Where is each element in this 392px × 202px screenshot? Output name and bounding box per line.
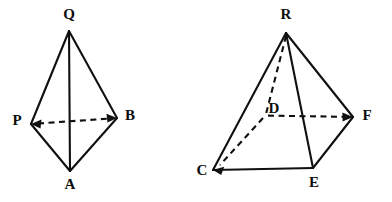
vertex-label-P: P <box>12 112 21 128</box>
vertex-label-A: A <box>65 176 76 192</box>
vertex-label-C: C <box>197 162 208 178</box>
vertex-label-R: R <box>281 6 292 22</box>
vertex-label-F: F <box>362 107 371 123</box>
geometry-diagram-canvas: Q P B A R <box>0 0 392 202</box>
vertex-label-E: E <box>309 174 319 190</box>
vertex-label-Q: Q <box>63 6 75 22</box>
vertex-label-B: B <box>125 107 135 123</box>
vertex-label-D: D <box>269 100 280 116</box>
edge-Q-A <box>69 31 70 171</box>
